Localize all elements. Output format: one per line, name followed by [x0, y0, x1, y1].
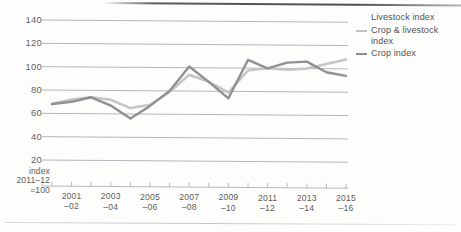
- y-axis-tick-label: 140: [8, 14, 42, 25]
- x-axis-tick-label: 2015–16: [324, 193, 368, 213]
- x-tick-year-start: 2015: [336, 193, 356, 203]
- y-axis-tick-label: 120: [8, 37, 42, 48]
- x-axis-tick-label: 2003–04: [89, 191, 133, 211]
- x-tick-year-end: –10: [206, 203, 250, 213]
- x-axis-tick-label: 2009–10: [206, 192, 250, 212]
- legend-line-swatch-icon: [356, 25, 368, 36]
- x-tick-year-end: –04: [89, 202, 133, 212]
- gridline: [42, 113, 348, 115]
- gridline: [42, 137, 348, 139]
- x-tick-year-start: 2011: [258, 193, 277, 203]
- legend-item[interactable]: Livestock index: [356, 12, 458, 23]
- y-axis-tick-label: 100: [8, 61, 42, 72]
- legend-item-label: Crop index: [371, 48, 416, 59]
- legend-item-label: Crop & livestock index: [371, 25, 458, 46]
- x-tick-year-start: 2005: [140, 192, 160, 202]
- x-axis-tick-label: 2007–08: [167, 192, 211, 212]
- x-axis-tick-label: 2011–12: [246, 193, 290, 213]
- x-axis-tick-label: 2005–06: [128, 192, 172, 212]
- x-tick-year-end: –02: [50, 201, 94, 211]
- gridline: [42, 160, 348, 162]
- x-tick-year-end: –16: [324, 203, 368, 213]
- legend-item-label: Livestock index: [371, 12, 435, 23]
- x-tick-year-end: –14: [285, 203, 329, 213]
- gridline: [42, 20, 348, 22]
- y-axis-tick-label: 60: [8, 107, 42, 118]
- y-axis-tick-label: 80: [8, 84, 42, 95]
- y-axis-tick-label: 40: [8, 131, 42, 142]
- legend-line-swatch-icon: [356, 48, 368, 59]
- y-axis-note-line-3: =100: [30, 185, 50, 195]
- x-axis-line: [42, 186, 348, 188]
- x-tick-year-end: –08: [167, 202, 211, 212]
- x-tick-year-start: 2009: [218, 192, 238, 202]
- figure-container: 14012010080604020 index 2011–12 =100 200…: [0, 0, 461, 232]
- x-axis-tick-label: 2013–14: [285, 193, 329, 213]
- legend-line-swatch-icon: [356, 12, 368, 23]
- x-axis-tick-label: 2001–02: [50, 191, 94, 211]
- chart-legend: Livestock indexCrop & livestock indexCro…: [356, 12, 458, 61]
- x-tick-year-end: –12: [246, 203, 290, 213]
- y-axis-index-note: index 2011–12 =100: [6, 167, 50, 195]
- x-tick-year-start: 2003: [101, 191, 121, 201]
- x-tick-year-start: 2013: [297, 193, 317, 203]
- x-tick-year-start: 2001: [62, 191, 82, 201]
- gridline: [42, 43, 348, 45]
- legend-item[interactable]: Crop & livestock index: [356, 25, 458, 46]
- x-tick-year-end: –06: [128, 202, 172, 212]
- legend-item[interactable]: Crop index: [356, 48, 458, 59]
- gridline: [42, 90, 348, 92]
- y-axis-tick-label: 20: [8, 154, 42, 165]
- x-tick-year-start: 2007: [179, 192, 199, 202]
